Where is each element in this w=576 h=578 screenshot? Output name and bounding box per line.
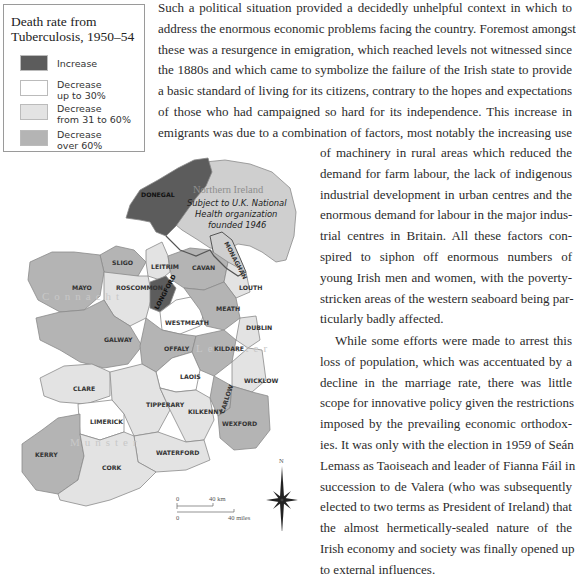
text-line: Such a political situation provided a de… <box>158 0 572 19</box>
text-line: While some efforts were made to arrest t… <box>320 331 572 352</box>
label-cork: CORK <box>102 464 122 471</box>
text-line: young Irish men and women, with the pove… <box>320 268 572 289</box>
text-line: spired to siphon off enormous numbers of <box>320 247 572 268</box>
text-line: scope for innovative policy given the re… <box>320 393 572 414</box>
legend-swatch-decrease-over-60 <box>20 130 48 146</box>
text-line: demand for farm labour, the lack of indi… <box>320 164 572 185</box>
text-line: trial centres in Britain. All these fact… <box>320 226 572 247</box>
label-laois: LAOIS <box>180 373 201 380</box>
compass-north-label: N <box>279 457 284 464</box>
label-louth: LOUTH <box>239 284 262 291</box>
scale-mi-zero: 0 <box>176 514 179 521</box>
label-westmeath: WESTMEATH <box>165 319 209 326</box>
text-line: Lemass as Taoiseach and leader of Fianna… <box>320 456 572 477</box>
map-legend: Death rate from Tuberculosis, 1950–54 In… <box>3 4 145 152</box>
label-roscommon: ROSCOMMON <box>116 284 163 291</box>
county-mayo <box>28 252 104 312</box>
text-line: industrial development in urban centres … <box>320 185 572 206</box>
legend-swatch-decrease-31-60 <box>20 104 48 120</box>
label-dublin: DUBLIN <box>246 324 272 331</box>
ni-title: Northern Ireland <box>193 184 264 195</box>
text-line: decline in the marriage rate, there was … <box>320 373 572 394</box>
label-limerick: LIMERICK <box>90 418 123 425</box>
text-line: Irish economy and society was finally op… <box>320 539 572 560</box>
label-tipperary: TIPPERARY <box>146 401 185 408</box>
text-line: elected to two terms as President of Ire… <box>320 497 572 518</box>
label-galway: GALWAY <box>104 336 133 343</box>
legend-swatch-increase <box>20 55 48 71</box>
text-line: enormous demand for labour in the major … <box>320 205 572 226</box>
text-line: emigrants was due to a combination of fa… <box>158 123 572 144</box>
scale-km-zero: 0 <box>176 495 179 502</box>
label-leitrim: LEITRIM <box>151 263 179 270</box>
label-donegal: DONEGAL <box>141 191 175 198</box>
legend-swatch-decrease-30 <box>20 80 48 96</box>
province-label-connacht: Connacht <box>42 290 124 302</box>
label-meath: MEATH <box>216 305 240 312</box>
text-line: to external influences. <box>320 560 572 578</box>
text-line: succession to de Valera (who was subsequ… <box>320 477 572 498</box>
scale-km-label: 40 km <box>209 495 225 502</box>
legend-title: Death rate from Tuberculosis, 1950–54 <box>11 14 134 44</box>
label-kerry: KERRY <box>35 451 58 458</box>
text-line: a basic standard of living for its citiz… <box>158 81 572 102</box>
text-line: ticularly badly affected. <box>320 309 572 330</box>
text-line: imposed by the prevailing economic ortho… <box>320 414 572 435</box>
label-sligo: SLIGO <box>112 259 133 266</box>
county-clare <box>40 364 110 404</box>
ni-note-2: Health organization <box>195 209 277 219</box>
text-line: loss of population, which was accentuate… <box>320 352 572 373</box>
label-waterford: WATERFORD <box>156 449 199 456</box>
province-label-munster: Munster <box>70 436 142 448</box>
scale-mi-label: 40 miles <box>228 514 251 521</box>
paragraph-2: While some efforts were made to arrest t… <box>320 331 572 578</box>
text-line: address the enormous economic problems f… <box>158 19 572 40</box>
paragraph-1-top: Such a political situation provided a de… <box>158 0 572 144</box>
label-offaly: OFFALY <box>164 345 190 352</box>
county-kilkenny <box>160 388 214 442</box>
label-kildare: KILDARE <box>214 345 244 352</box>
text-line: stricken areas of the western seaboard b… <box>320 289 572 310</box>
label-mayo: MAYO <box>72 284 92 291</box>
text-line: these was a resurgence in emigration, wh… <box>158 40 572 61</box>
text-line: ies. It was only with the election in 19… <box>320 435 572 456</box>
text-line: the almost hermetically-sealed nature of… <box>320 518 572 539</box>
county-wicklow <box>232 348 266 392</box>
compass-rose-icon <box>266 466 298 531</box>
ni-note-1: Subject to U.K. National <box>187 198 287 208</box>
text-line: of those who had campaigned so hard for … <box>158 102 572 123</box>
ni-note-3: founded 1946 <box>208 220 266 230</box>
label-wicklow: WICKLOW <box>244 377 278 384</box>
county-leitrim <box>146 242 170 280</box>
label-kilkenny: KILKENNY <box>188 408 223 415</box>
label-cavan: CAVAN <box>192 264 215 271</box>
scale-bar <box>177 503 234 512</box>
text-line: the 1880s and which came to symbolize th… <box>158 60 572 81</box>
label-wexford: WEXFORD <box>222 420 257 427</box>
paragraph-1-column: of machinery in rural areas which reduce… <box>320 143 572 330</box>
text-line: of machinery in rural areas which reduce… <box>320 143 572 164</box>
label-clare: CLARE <box>73 385 95 392</box>
